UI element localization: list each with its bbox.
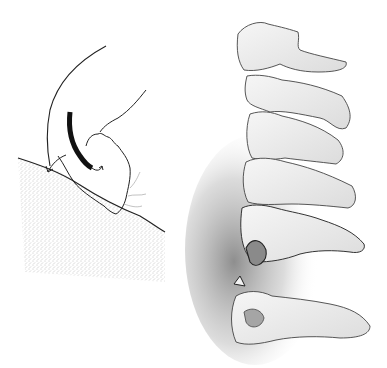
- vertebra-c5: [243, 158, 355, 208]
- ground-slope: [18, 158, 165, 282]
- impact-diagram: [18, 46, 165, 282]
- shoulder-outline: [100, 90, 146, 132]
- rotation-arrow-icon-2: [92, 166, 103, 170]
- illustration-canvas: [0, 0, 387, 368]
- hair-wisps: [124, 172, 146, 207]
- vertebra-c2: [237, 22, 346, 72]
- cervical-spine: [185, 22, 370, 365]
